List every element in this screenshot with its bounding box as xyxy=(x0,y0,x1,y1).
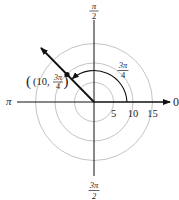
point-label: ( (10, 3π 4 ) xyxy=(26,73,69,91)
tick-10: 10 xyxy=(128,108,139,119)
point-label-open-paren: ( xyxy=(26,73,31,90)
label-pi-over-2: π 2 xyxy=(90,1,99,21)
svg-text:2: 2 xyxy=(92,11,96,21)
polar-diagram: 0 π π 2 3π 2 5 10 15 3π 4 ( (10, 3π 4 ) xyxy=(0,0,179,199)
svg-text:(10,: (10, xyxy=(33,76,50,88)
label-pi: π xyxy=(6,95,12,107)
label-3pi-over-2: 3π 2 xyxy=(89,180,100,199)
point-label-close-paren: ) xyxy=(64,73,69,90)
tick-15: 15 xyxy=(147,108,158,119)
angle-arc xyxy=(73,71,128,102)
svg-text:3π: 3π xyxy=(118,60,128,70)
tick-5: 5 xyxy=(111,108,116,119)
svg-text:3π: 3π xyxy=(53,73,63,82)
label-0: 0 xyxy=(173,95,179,109)
svg-text:4: 4 xyxy=(56,82,60,91)
svg-text:2: 2 xyxy=(92,191,97,200)
svg-text:3π: 3π xyxy=(89,180,99,190)
arc-label-3pi-over-4: 3π 4 xyxy=(118,60,129,80)
svg-text:π: π xyxy=(92,1,97,11)
